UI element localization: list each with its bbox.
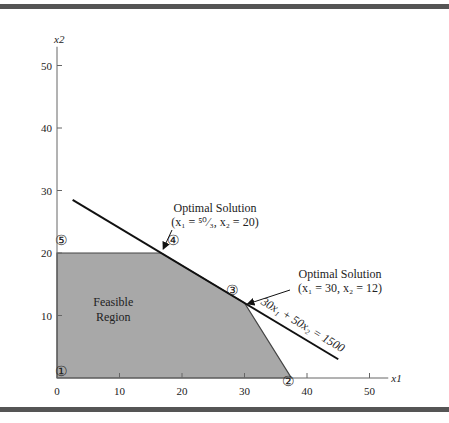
y-tick-label: 40: [41, 122, 53, 134]
corner-point-5: ⑤: [55, 233, 68, 248]
x-tick-label: 10: [114, 385, 126, 397]
x-tick-label: 40: [302, 385, 314, 397]
feasible-region-label-2: Region: [96, 310, 131, 324]
corner-point-4: ④: [167, 233, 180, 248]
y-tick-label: 20: [41, 247, 53, 259]
annotation-1-text: (x₁ = ⁵⁰⁄₃, x₂ = 20): [171, 215, 258, 229]
feasible-region: [57, 253, 291, 378]
lp-chart: FeasibleRegion 010203040501020304050x1x2…: [0, 0, 449, 423]
corner-point-3: ③: [226, 283, 239, 298]
x-tick-label: 0: [54, 385, 60, 397]
x-tick-label: 20: [177, 385, 189, 397]
annotation-2-title: Optimal Solution: [298, 267, 381, 281]
annotation-1-title: Optimal Solution: [173, 201, 256, 215]
corner-point-2: ②: [282, 374, 295, 389]
corner-point-1: ①: [55, 364, 68, 379]
x-axis-label: x1: [390, 372, 401, 384]
y-axis-label: x2: [53, 33, 65, 45]
y-tick-label: 30: [41, 185, 53, 197]
x-tick-label: 50: [364, 385, 376, 397]
y-tick-label: 10: [41, 310, 53, 322]
x-tick-label: 30: [239, 385, 251, 397]
annotation-2-text: (x₁ = 30, x₂ = 12): [298, 281, 382, 295]
feasible-region-label-1: Feasible: [93, 295, 133, 309]
y-tick-label: 50: [41, 60, 53, 72]
